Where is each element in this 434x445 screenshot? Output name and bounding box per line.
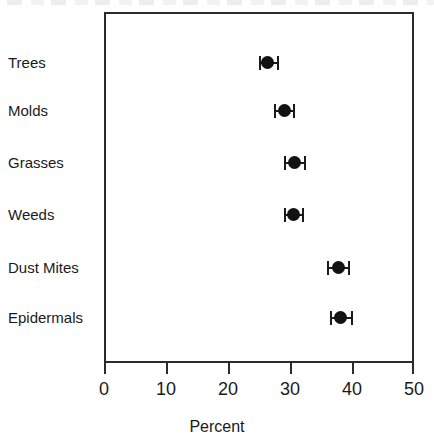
category-label-text: Trees [8,55,104,70]
x-axis-tick [290,363,292,374]
x-axis-tick-label: 0 [74,379,134,399]
error-bar-cap-low [327,261,329,275]
category-label-text: Weeds [8,207,104,222]
error-bar-cap-low [274,104,276,118]
x-axis-tick-label: 40 [322,379,382,399]
x-axis-tick [228,363,230,374]
data-point-marker [288,156,301,169]
category-label: Epidermals [0,318,96,325]
data-row [104,100,414,122]
x-axis-tick-label: 30 [260,379,320,399]
data-point-marker [332,261,345,274]
error-bar-cap-low [284,208,286,222]
x-axis-tick [352,363,354,374]
error-bar-cap-high [302,208,304,222]
x-axis-tick [166,363,168,374]
x-axis-tick-label: 20 [198,379,258,399]
x-axis-tick-label: 50 [384,379,434,399]
category-label: Weeds [0,215,96,222]
x-axis-title: Percent [0,418,434,436]
category-label: Molds [0,111,96,118]
error-bar-cap-high [304,156,306,170]
category-label: Dust Mites [0,268,96,275]
data-point-marker [334,311,347,324]
error-bar-cap-high [351,311,353,325]
data-row [104,204,414,226]
data-row [104,152,414,174]
category-label-text: Molds [8,103,104,118]
error-bar-cap-low [284,156,286,170]
category-label-text: Epidermals [8,310,104,325]
error-bar-cap-high [293,104,295,118]
x-axis-tick [412,363,414,374]
data-point-marker [287,208,300,221]
category-label-text: Grasses [8,155,104,170]
error-bar-cap-low [330,311,332,325]
category-label: Grasses [0,163,96,170]
data-row [104,257,414,279]
error-bar-cap-high [277,56,279,70]
data-point-marker [278,104,291,117]
x-axis-tick-label: 10 [136,379,196,399]
dot-plot-figure: TreesMoldsGrassesWeedsDust MitesEpiderma… [0,0,434,445]
plot-area [104,12,414,363]
error-bar-cap-high [348,261,350,275]
data-row [104,307,414,329]
data-point-marker [261,56,274,69]
category-label-text: Dust Mites [8,260,104,275]
x-axis-tick [104,363,106,374]
category-label: Trees [0,63,96,70]
data-row [104,52,414,74]
